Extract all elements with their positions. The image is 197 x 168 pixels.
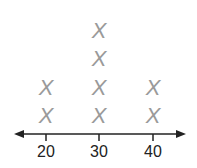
x-mark-icon: X: [91, 21, 107, 41]
left-arrow-icon: [14, 130, 24, 138]
tick-label: 40: [138, 143, 168, 161]
x-mark-icon: X: [145, 106, 161, 126]
right-arrow-icon: [176, 130, 186, 138]
tick-label: 30: [84, 143, 114, 161]
x-mark-icon: X: [91, 49, 107, 69]
x-mark-icon: X: [38, 106, 54, 126]
x-mark-icon: X: [91, 106, 107, 126]
tick-label: 20: [31, 143, 61, 161]
x-mark-icon: X: [145, 78, 161, 98]
x-mark-icon: X: [91, 78, 107, 98]
dot-plot: XXXXXXXX 203040: [0, 0, 197, 168]
x-mark-icon: X: [38, 78, 54, 98]
